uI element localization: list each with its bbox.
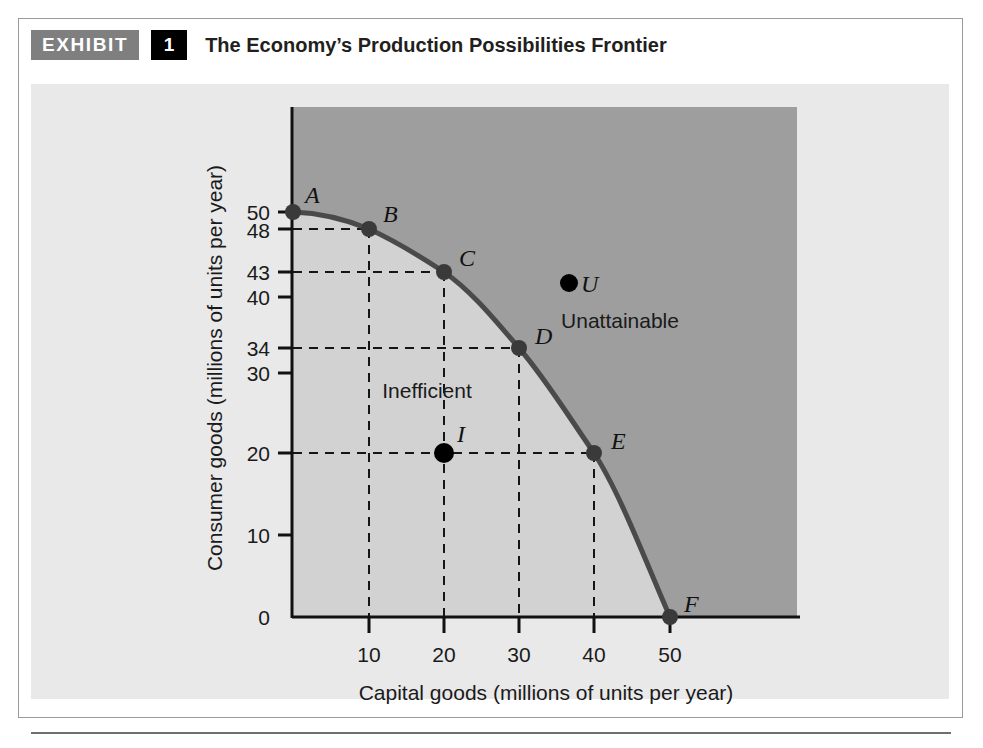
figure-panel — [31, 84, 949, 699]
exhibit-header: EXHIBIT 1 The Economy’s Production Possi… — [31, 29, 667, 61]
exhibit-tag: EXHIBIT — [31, 30, 139, 60]
exhibit-figure: EXHIBIT 1 The Economy’s Production Possi… — [0, 0, 983, 748]
exhibit-number-badge: 1 — [151, 30, 187, 60]
exhibit-title: The Economy’s Production Possibilities F… — [205, 34, 667, 57]
bottom-divider — [31, 732, 951, 734]
